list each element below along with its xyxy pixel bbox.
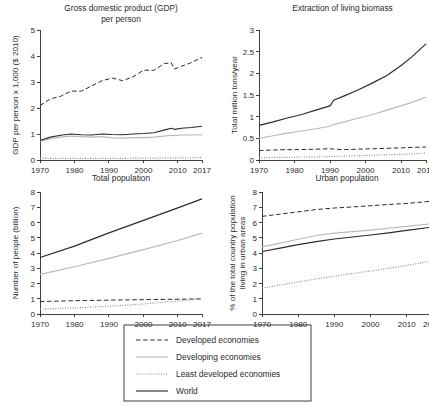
- y-axis-title: Number of people (billion): [11, 206, 20, 299]
- y-tick-label: 1: [30, 295, 35, 304]
- chart-panel-gdp: Gross domestic product (GDP)per person01…: [0, 0, 215, 172]
- y-tick-label: 6: [30, 219, 35, 228]
- chart-panel-total-population: Total population012345678197019801990200…: [0, 170, 215, 322]
- chart-title: Extraction of living biomass: [292, 3, 393, 13]
- y-tick-label: 1: [252, 295, 257, 304]
- y-tick-label: 1: [249, 113, 254, 122]
- y-tick-label: 5: [252, 234, 257, 243]
- chart-panel-biomass: Extraction of living biomass00.511.522.5…: [214, 0, 429, 172]
- urban-population-chart-svg: Urban population012345678197019801990200…: [214, 170, 429, 322]
- y-tick-label: 5: [30, 26, 35, 35]
- series-line-developed-economies: [259, 147, 426, 150]
- chart-title: Gross domestic product (GDP): [64, 3, 178, 13]
- series-line-developing-economies: [40, 135, 202, 142]
- y-axis-title: GDP per person x 1,000 ($ 2010): [11, 35, 20, 155]
- series-line-developing-economies: [259, 97, 426, 138]
- y-axis-title: Total million tons/year: [230, 56, 239, 134]
- y-tick-label: 0: [30, 156, 35, 165]
- series-line-least-developed-economies: [259, 153, 426, 158]
- y-tick-label: 0: [30, 310, 35, 319]
- series-line-world: [40, 199, 202, 258]
- y-tick-label: 5: [30, 234, 35, 243]
- legend-label-least-developed-economies: Least developed economies: [176, 369, 280, 379]
- series-line-world: [259, 44, 426, 125]
- y-tick-label: 3: [249, 26, 254, 35]
- y-tick-label: 2: [30, 104, 35, 113]
- y-tick-label: 4: [252, 249, 257, 258]
- y-tick-label: 0.5: [243, 134, 255, 143]
- y-tick-label: 3: [30, 264, 35, 273]
- y-tick-label: 7: [252, 203, 257, 212]
- y-axis-title: living in urban areas: [238, 217, 247, 289]
- y-tick-label: 2: [30, 280, 35, 289]
- y-tick-label: 8: [30, 188, 35, 197]
- series-line-developing-economies: [40, 233, 202, 274]
- chart-title: per person: [101, 14, 141, 24]
- legend-svg: Developed economiesDeveloping economiesL…: [0, 320, 429, 406]
- y-tick-label: 0: [249, 156, 254, 165]
- series-line-least-developed-economies: [262, 261, 429, 288]
- chart-title: Urban population: [315, 173, 379, 183]
- y-tick-label: 3: [30, 78, 35, 87]
- y-tick-label: 8: [252, 188, 257, 197]
- chart-panel-urban-population: Urban population012345678197019801990200…: [214, 170, 429, 322]
- y-tick-label: 2: [252, 280, 257, 289]
- y-tick-label: 1: [30, 130, 35, 139]
- y-tick-label: 4: [30, 249, 35, 258]
- series-line-developed-economies: [262, 201, 429, 216]
- y-tick-label: 7: [30, 203, 35, 212]
- y-axis-title: % of the total country population: [228, 195, 237, 311]
- series-line-developing-economies: [262, 224, 429, 247]
- legend-label-world: World: [176, 386, 198, 396]
- y-tick-label: 1.5: [243, 91, 255, 100]
- legend-label-developing-economies: Developing economies: [176, 352, 261, 362]
- chart-title: Total population: [92, 173, 151, 183]
- chart-legend: Developed economiesDeveloping economiesL…: [0, 320, 429, 406]
- series-line-least-developed-economies: [40, 158, 202, 159]
- y-tick-label: 0: [252, 310, 257, 319]
- series-line-developed-economies: [40, 57, 202, 105]
- y-tick-label: 2.5: [243, 48, 255, 57]
- legend-label-developed-economies: Developed economies: [176, 335, 259, 345]
- multi-panel-figure: Gross domestic product (GDP)per person01…: [0, 0, 429, 406]
- y-tick-label: 2: [249, 69, 254, 78]
- y-tick-label: 6: [252, 219, 257, 228]
- gdp-chart-svg: Gross domestic product (GDP)per person01…: [0, 0, 215, 172]
- series-line-world: [262, 227, 429, 251]
- biomass-chart-svg: Extraction of living biomass00.511.522.5…: [214, 0, 429, 172]
- total-population-chart-svg: Total population012345678197019801990200…: [0, 170, 215, 322]
- y-tick-label: 3: [252, 264, 257, 273]
- y-tick-label: 4: [30, 52, 35, 61]
